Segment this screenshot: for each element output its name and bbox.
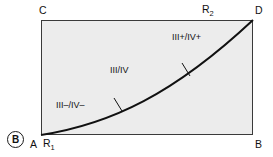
resistance-low-symbol: R <box>43 137 51 149</box>
vertex-label-resistance-low: R1 <box>43 138 55 149</box>
vertex-label-resistance-high: R2 <box>202 4 214 15</box>
figure-panel-b: B C R2 D A R1 B III–/IV– III/IV III+/IV+ <box>0 0 273 157</box>
vertex-label-bottom-right: B <box>255 139 262 150</box>
plot-curve-layer <box>41 20 253 135</box>
panel-letter-text: B <box>12 135 19 145</box>
curve-zone-label-lower: III–/IV– <box>56 101 85 110</box>
vertex-label-bottom-left: A <box>30 139 37 150</box>
vertex-label-top-right: D <box>255 5 263 16</box>
curve-zone-label-middle: III/IV <box>110 66 129 75</box>
curve-tick-lower <box>114 98 122 111</box>
curve-zone-label-upper: III+/IV+ <box>172 33 201 42</box>
resistance-high-symbol: R <box>202 3 210 15</box>
vertex-label-top-left: C <box>39 5 47 16</box>
panel-letter-badge: B <box>7 131 24 148</box>
boundary-curve <box>41 20 253 135</box>
resistance-low-subscript: 1 <box>51 143 55 152</box>
resistance-high-subscript: 2 <box>210 9 214 18</box>
